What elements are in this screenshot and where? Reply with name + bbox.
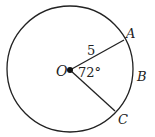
label-b: B <box>136 69 147 84</box>
label-radius: 5 <box>87 43 95 58</box>
label-angle: 72° <box>78 65 101 80</box>
circle-diagram: O 5 72° A B C <box>0 0 155 137</box>
label-c: C <box>118 112 128 127</box>
center-point <box>67 67 73 73</box>
label-o: O <box>56 63 68 79</box>
label-a: A <box>125 26 135 41</box>
